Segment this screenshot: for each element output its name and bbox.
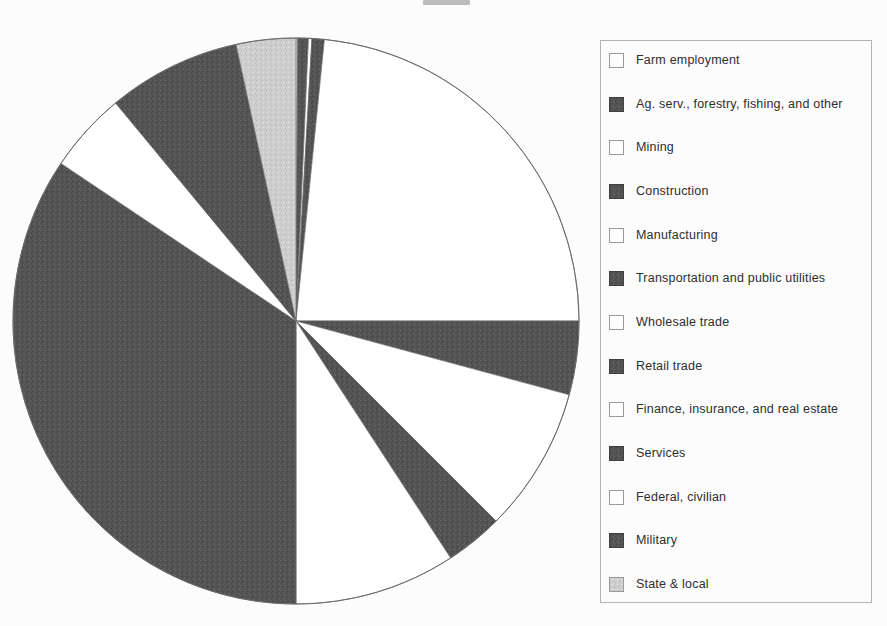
legend-item-mining: Mining [609,140,865,155]
legend-item-manufacturing: Manufacturing [609,228,865,243]
legend-swatch-dark [609,184,624,199]
legend-label: Military [636,533,677,548]
legend-swatch-light [609,577,624,592]
pie-slice-manufacturing [296,39,579,321]
pie-slices [13,38,579,604]
legend-item-ag-serv-forestry-fishing-and-other: Ag. serv., forestry, fishing, and other [609,97,865,112]
legend-label: Retail trade [636,359,702,374]
legend-item-retail-trade: Retail trade [609,359,865,374]
legend-item-military: Military [609,533,865,548]
legend-swatch-white [609,53,624,68]
legend-label: Manufacturing [636,228,718,243]
figure: Farm employmentAg. serv., forestry, fish… [0,0,887,626]
legend-label: Federal, civilian [636,490,726,505]
legend-swatch-white [609,402,624,417]
legend-item-construction: Construction [609,184,865,199]
legend-item-wholesale-trade: Wholesale trade [609,315,865,330]
legend-swatch-dark [609,97,624,112]
legend-item-state-local: State & local [609,577,865,592]
legend-label: Ag. serv., forestry, fishing, and other [636,97,843,112]
legend-swatch-dark [609,533,624,548]
legend-swatch-dark [609,446,624,461]
legend-swatch-white [609,140,624,155]
legend-label: Construction [636,184,709,199]
legend-item-federal-civilian: Federal, civilian [609,490,865,505]
legend-item-finance-insurance-and-real-estate: Finance, insurance, and real estate [609,402,865,417]
legend-swatch-dark [609,359,624,374]
cropped-title-fragment [423,0,470,5]
legend-label: Finance, insurance, and real estate [636,402,838,417]
legend-item-transportation-and-public-utilities: Transportation and public utilities [609,271,865,286]
chart-legend: Farm employmentAg. serv., forestry, fish… [600,40,872,603]
legend-label: Mining [636,140,674,155]
legend-item-farm-employment: Farm employment [609,53,865,68]
legend-label: Services [636,446,686,461]
legend-label: Transportation and public utilities [636,271,825,286]
legend-swatch-white [609,490,624,505]
legend-item-services: Services [609,446,865,461]
legend-swatch-white [609,228,624,243]
legend-label: Farm employment [636,53,740,68]
legend-swatch-dark [609,271,624,286]
legend-swatch-white [609,315,624,330]
legend-label: State & local [636,577,709,592]
legend-label: Wholesale trade [636,315,729,330]
